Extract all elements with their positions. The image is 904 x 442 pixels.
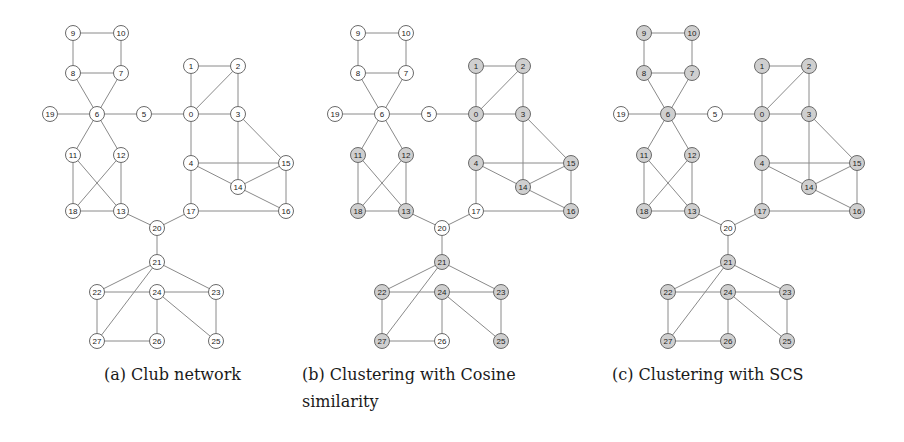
node-label-13: 13 bbox=[117, 207, 126, 216]
edge-14-15 bbox=[809, 163, 857, 187]
node-0: 0 bbox=[184, 107, 199, 122]
node-18: 18 bbox=[351, 204, 366, 219]
node-label-18: 18 bbox=[69, 207, 78, 216]
node-26: 26 bbox=[435, 334, 450, 349]
node-label-12: 12 bbox=[402, 151, 411, 160]
node-25: 25 bbox=[494, 334, 509, 349]
edge-14-15 bbox=[238, 163, 286, 187]
edge-2-0 bbox=[191, 66, 238, 114]
node-label-24: 24 bbox=[153, 288, 162, 297]
node-12: 12 bbox=[114, 148, 129, 163]
node-label-12: 12 bbox=[117, 151, 126, 160]
edge-14-15 bbox=[523, 163, 571, 187]
edge-21-23 bbox=[157, 262, 216, 292]
node-18: 18 bbox=[66, 204, 81, 219]
node-label-2: 2 bbox=[521, 62, 526, 71]
node-4: 4 bbox=[184, 156, 199, 171]
edge-14-16 bbox=[523, 187, 571, 211]
node-1: 1 bbox=[469, 59, 484, 74]
node-label-7: 7 bbox=[690, 69, 695, 78]
node-21: 21 bbox=[721, 255, 736, 270]
node-13: 13 bbox=[685, 204, 700, 219]
node-2: 2 bbox=[802, 59, 817, 74]
node-label-22: 22 bbox=[664, 288, 673, 297]
node-label-27: 27 bbox=[664, 337, 673, 346]
node-14: 14 bbox=[802, 180, 817, 195]
node-label-19: 19 bbox=[331, 110, 340, 119]
caption-a-line-1: (a) Club network bbox=[104, 361, 241, 388]
edge-14-16 bbox=[238, 187, 286, 211]
caption-b-line-2: similarity bbox=[302, 388, 516, 415]
node-24: 24 bbox=[150, 285, 165, 300]
node-label-15: 15 bbox=[567, 159, 576, 168]
node-label-7: 7 bbox=[119, 69, 124, 78]
node-label-21: 21 bbox=[153, 258, 162, 267]
node-label-22: 22 bbox=[93, 288, 102, 297]
node-label-26: 26 bbox=[438, 337, 447, 346]
node-label-20: 20 bbox=[438, 224, 447, 233]
node-label-0: 0 bbox=[474, 110, 479, 119]
node-label-14: 14 bbox=[519, 183, 528, 192]
node-8: 8 bbox=[637, 66, 652, 81]
node-2: 2 bbox=[516, 59, 531, 74]
node-label-3: 3 bbox=[807, 110, 812, 119]
node-label-20: 20 bbox=[153, 224, 162, 233]
node-3: 3 bbox=[516, 107, 531, 122]
node-27: 27 bbox=[661, 334, 676, 349]
node-label-23: 23 bbox=[212, 288, 221, 297]
node-5: 5 bbox=[137, 107, 152, 122]
node-5: 5 bbox=[422, 107, 437, 122]
edge-3-15 bbox=[238, 114, 286, 163]
node-9: 9 bbox=[66, 26, 81, 41]
node-label-17: 17 bbox=[187, 207, 196, 216]
network-panel-a: 0123456789101112131415161718192021222324… bbox=[43, 26, 294, 349]
network-panel-c: 0123456789101112131415161718192021222324… bbox=[614, 26, 865, 349]
node-21: 21 bbox=[435, 255, 450, 270]
node-10: 10 bbox=[399, 26, 414, 41]
node-9: 9 bbox=[351, 26, 366, 41]
node-17: 17 bbox=[755, 204, 770, 219]
node-label-16: 16 bbox=[567, 207, 576, 216]
node-label-25: 25 bbox=[783, 337, 792, 346]
node-14: 14 bbox=[516, 180, 531, 195]
node-label-2: 2 bbox=[807, 62, 812, 71]
node-5: 5 bbox=[708, 107, 723, 122]
node-16: 16 bbox=[564, 204, 579, 219]
edge-2-0 bbox=[476, 66, 523, 114]
node-15: 15 bbox=[564, 156, 579, 171]
node-label-8: 8 bbox=[356, 69, 361, 78]
node-label-5: 5 bbox=[142, 110, 147, 119]
node-label-24: 24 bbox=[438, 288, 447, 297]
node-label-13: 13 bbox=[688, 207, 697, 216]
node-7: 7 bbox=[399, 66, 414, 81]
edge-24-25 bbox=[728, 292, 787, 341]
edge-21-23 bbox=[728, 262, 787, 292]
node-label-7: 7 bbox=[404, 69, 409, 78]
caption-a: (a) Club network bbox=[104, 361, 241, 388]
node-label-9: 9 bbox=[71, 29, 76, 38]
node-label-0: 0 bbox=[189, 110, 194, 119]
node-label-20: 20 bbox=[724, 224, 733, 233]
node-20: 20 bbox=[150, 221, 165, 236]
node-label-2: 2 bbox=[236, 62, 241, 71]
node-label-16: 16 bbox=[853, 207, 862, 216]
node-label-8: 8 bbox=[71, 69, 76, 78]
node-label-11: 11 bbox=[354, 151, 363, 160]
node-label-25: 25 bbox=[497, 337, 506, 346]
node-label-6: 6 bbox=[380, 110, 385, 119]
node-label-14: 14 bbox=[234, 183, 243, 192]
node-8: 8 bbox=[66, 66, 81, 81]
node-label-5: 5 bbox=[713, 110, 718, 119]
node-20: 20 bbox=[721, 221, 736, 236]
node-0: 0 bbox=[469, 107, 484, 122]
edge-21-23 bbox=[442, 262, 501, 292]
node-17: 17 bbox=[184, 204, 199, 219]
node-12: 12 bbox=[399, 148, 414, 163]
node-label-9: 9 bbox=[642, 29, 647, 38]
node-21: 21 bbox=[150, 255, 165, 270]
node-label-26: 26 bbox=[724, 337, 733, 346]
node-24: 24 bbox=[721, 285, 736, 300]
node-27: 27 bbox=[90, 334, 105, 349]
node-label-13: 13 bbox=[402, 207, 411, 216]
node-20: 20 bbox=[435, 221, 450, 236]
